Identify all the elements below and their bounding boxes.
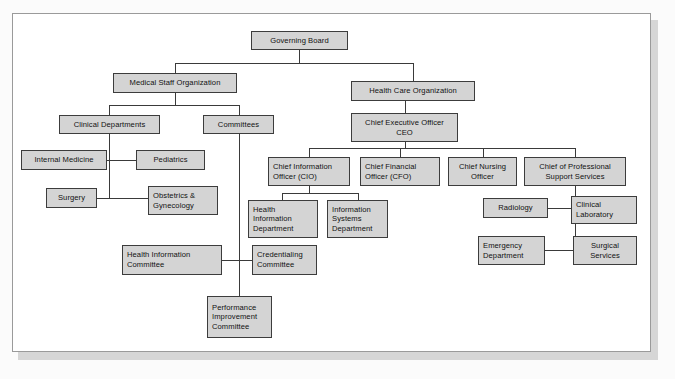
- node-chief-information-officer[interactable]: Chief Information Officer (CIO): [268, 157, 350, 186]
- node-label: Surgery: [58, 193, 85, 203]
- connector-cio-stem: [309, 186, 310, 193]
- connector-ceo-bus: [309, 148, 575, 149]
- node-label: Surgical Services: [590, 241, 620, 260]
- node-label: Performance Improvement Committee: [212, 303, 257, 332]
- connector-clinical-departments-spine: [109, 134, 110, 198]
- node-health-information-committee[interactable]: Health Information Committee: [122, 245, 222, 275]
- node-obstetrics-gynecology[interactable]: Obstetrics & Gynecology: [148, 186, 218, 215]
- connector-to-chief-professional-support: [575, 148, 576, 157]
- connector-committees-spine: [239, 134, 240, 296]
- node-label: Health Information Committee: [127, 250, 190, 269]
- node-label: Internal Medicine: [34, 155, 93, 165]
- node-medical-staff-organization[interactable]: Medical Staff Organization: [113, 73, 237, 93]
- node-chief-nursing-officer[interactable]: Chief Nursing Officer: [448, 157, 517, 186]
- node-label: Emergency Department: [483, 241, 523, 260]
- node-label: Obstetrics & Gynecology: [153, 191, 195, 210]
- node-surgical-services[interactable]: Surgical Services: [573, 236, 637, 265]
- node-health-information-department[interactable]: Health Information Department: [248, 200, 318, 238]
- connector-to-cio: [309, 148, 310, 157]
- connector-committees-row1: [222, 260, 252, 261]
- node-surgery[interactable]: Surgery: [46, 188, 97, 208]
- node-chief-financial-officer[interactable]: Chief Financial Officer (CFO): [360, 157, 440, 186]
- node-label: Credentialing Committee: [257, 250, 303, 269]
- connector-to-committees: [239, 105, 240, 115]
- node-performance-improvement-committee[interactable]: Performance Improvement Committee: [207, 296, 272, 338]
- node-health-care-organization[interactable]: Health Care Organization: [351, 81, 475, 101]
- node-label: Pediatrics: [153, 155, 187, 165]
- node-label: Health Information Department: [253, 205, 293, 234]
- connector-medical-staff-bus: [109, 105, 239, 106]
- node-label: Clinical Laboratory: [576, 200, 613, 219]
- node-label: Clinical Departments: [74, 120, 146, 130]
- node-label: Chief Financial Officer (CFO): [365, 162, 416, 181]
- node-label: Committees: [218, 120, 259, 130]
- connector-governing-board-stem: [299, 50, 300, 63]
- connector-to-chief-nursing-officer: [483, 148, 484, 157]
- node-emergency-department[interactable]: Emergency Department: [478, 236, 545, 265]
- connector-to-cfo: [400, 148, 401, 157]
- connector-clinical-departments-row2: [97, 198, 148, 199]
- connector-cio-bus: [282, 193, 358, 194]
- node-label: Health Care Organization: [369, 86, 457, 96]
- node-label: Chief of Professional Support Services: [539, 162, 611, 181]
- node-internal-medicine[interactable]: Internal Medicine: [21, 150, 107, 170]
- org-chart-canvas: Governing Board Medical Staff Organizati…: [0, 0, 675, 379]
- connector-medical-staff-stem: [175, 93, 176, 105]
- node-label: Governing Board: [270, 36, 329, 46]
- node-clinical-laboratory[interactable]: Clinical Laboratory: [571, 196, 637, 224]
- node-label: Chief Executive Officer CEO: [365, 118, 444, 137]
- diagram-page: Governing Board Medical Staff Organizati…: [0, 0, 675, 379]
- node-label: Radiology: [498, 203, 532, 213]
- connector-professional-support-row2: [545, 250, 573, 251]
- connector-professional-support-row1: [548, 208, 571, 209]
- node-chief-executive-officer[interactable]: Chief Executive Officer CEO: [351, 113, 458, 142]
- node-credentialing-committee[interactable]: Credentialing Committee: [252, 245, 317, 275]
- node-chief-of-professional-support-services[interactable]: Chief of Professional Support Services: [524, 157, 626, 186]
- node-information-systems-department[interactable]: Information Systems Department: [327, 200, 388, 238]
- node-clinical-departments[interactable]: Clinical Departments: [59, 115, 160, 134]
- connector-to-health-information-department: [282, 193, 283, 200]
- node-label: Information Systems Department: [332, 205, 372, 234]
- node-label: Chief Nursing Officer: [459, 162, 506, 181]
- node-pediatrics[interactable]: Pediatrics: [136, 150, 205, 170]
- node-governing-board[interactable]: Governing Board: [251, 31, 348, 50]
- node-radiology[interactable]: Radiology: [483, 198, 548, 218]
- connector-to-clinical-departments: [109, 105, 110, 115]
- connector-to-medical-staff-organization: [175, 63, 176, 73]
- connector-governing-board-bus: [175, 63, 413, 64]
- connector-to-information-systems-department: [358, 193, 359, 200]
- connector-to-health-care-organization: [413, 63, 414, 81]
- node-label: Chief Information Officer (CIO): [273, 162, 332, 181]
- node-label: Medical Staff Organization: [130, 78, 221, 88]
- connector-health-care-org-to-ceo: [405, 101, 406, 113]
- node-committees[interactable]: Committees: [203, 115, 274, 134]
- connector-clinical-departments-row1: [107, 160, 136, 161]
